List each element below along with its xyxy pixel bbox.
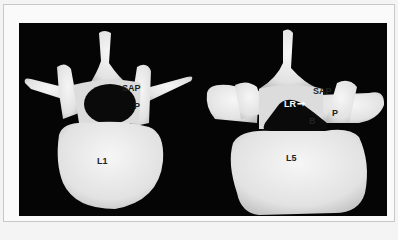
label-pedicle-left: P	[134, 101, 140, 111]
label-lateral-recess: LR	[284, 99, 296, 109]
l1-vertebra	[25, 31, 193, 209]
label-l1: L1	[97, 156, 108, 166]
right-arrow-icon: ➞	[297, 98, 305, 109]
vertebrae-illustration	[19, 23, 387, 216]
label-pedicle-right: P	[332, 108, 338, 118]
l5-vertebra	[207, 29, 384, 215]
figure-panel	[19, 23, 387, 216]
label-sap-right: SAP	[313, 86, 332, 96]
label-b: B	[309, 116, 316, 126]
label-l5: L5	[286, 153, 297, 163]
label-sap-left: SAP	[122, 83, 141, 93]
